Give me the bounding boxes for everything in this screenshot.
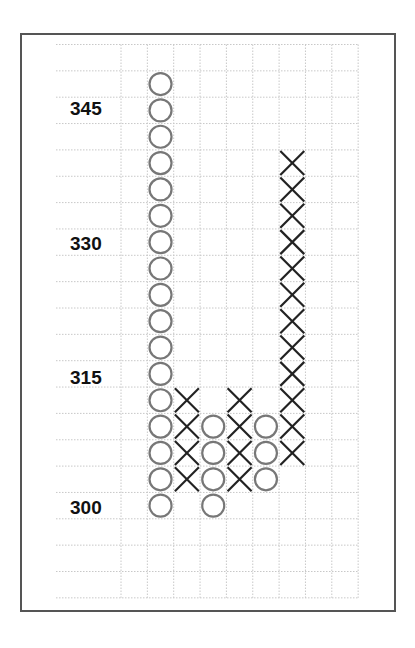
- o-mark-icon: [255, 468, 277, 490]
- o-mark-icon: [150, 126, 172, 148]
- o-mark-icon: [150, 205, 172, 227]
- o-mark-icon: [150, 178, 172, 200]
- o-mark-icon: [150, 363, 172, 385]
- o-mark-icon: [150, 99, 172, 121]
- y-axis-label-330: 330: [70, 234, 130, 254]
- o-mark-icon: [150, 73, 172, 95]
- o-mark-icon: [255, 442, 277, 464]
- o-mark-icon: [150, 310, 172, 332]
- o-mark-icon: [150, 231, 172, 253]
- y-axis-label-345: 345: [70, 99, 130, 119]
- o-mark-icon: [202, 442, 224, 464]
- o-mark-icon: [150, 389, 172, 411]
- y-axis-label-315: 315: [70, 368, 130, 388]
- o-mark-icon: [150, 284, 172, 306]
- o-mark-icon: [202, 468, 224, 490]
- o-mark-icon: [150, 416, 172, 438]
- o-mark-icon: [150, 337, 172, 359]
- o-mark-icon: [150, 152, 172, 174]
- o-mark-icon: [150, 442, 172, 464]
- o-mark-icon: [202, 416, 224, 438]
- y-axis-label-300: 300: [70, 498, 130, 518]
- o-mark-icon: [150, 257, 172, 279]
- o-mark-icon: [255, 416, 277, 438]
- o-mark-icon: [202, 495, 224, 517]
- o-mark-icon: [150, 468, 172, 490]
- o-mark-icon: [150, 495, 172, 517]
- point-and-figure-chart: [0, 0, 415, 648]
